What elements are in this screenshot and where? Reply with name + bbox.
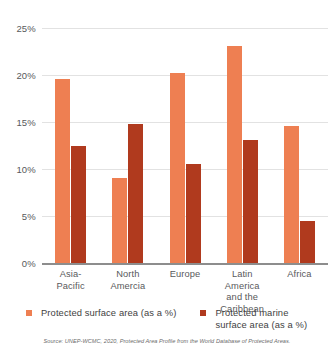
legend-item-protected-surface-area: Protected surface area (as a %): [26, 307, 176, 319]
bar[interactable]: [55, 79, 70, 263]
y-axis-tick-label: 20%: [16, 70, 36, 81]
y-axis-tick-label: 5%: [22, 211, 36, 222]
legend-swatch-icon: [200, 310, 206, 316]
chart-figure: 25%20%15%10%5%0% Asia-PacificNorthAmerci…: [0, 0, 334, 357]
bar[interactable]: [170, 73, 185, 263]
bar-group: [214, 0, 271, 263]
bar-group: [156, 0, 213, 263]
bar-groups: [42, 0, 328, 263]
y-axis-tick-label: 25%: [16, 23, 36, 34]
bar-group: [271, 0, 328, 263]
bar[interactable]: [128, 124, 143, 263]
chart-legend: Protected surface area (as a %) Protecte…: [0, 307, 334, 331]
bar-group: [99, 0, 156, 263]
legend-item-label: Protected marine surface area (as a %): [215, 307, 307, 331]
legend-item-protected-marine-surface-area: Protected marine surface area (as a %): [200, 307, 307, 331]
bar[interactable]: [243, 140, 258, 263]
legend-swatch-icon: [26, 310, 32, 316]
y-axis-tick-label: 0%: [22, 258, 36, 269]
x-axis-baseline: [42, 263, 328, 265]
bar[interactable]: [186, 164, 201, 263]
bar-group: [42, 0, 99, 263]
plot-area: 25%20%15%10%5%0%: [0, 0, 334, 268]
legend-item-label: Protected surface area (as a %): [41, 307, 176, 319]
bar[interactable]: [71, 146, 86, 264]
y-axis: 25%20%15%10%5%0%: [0, 0, 40, 268]
bar[interactable]: [227, 46, 242, 263]
bar[interactable]: [112, 178, 127, 263]
chart-source-note: Source: UNEP-WCMC, 2020, Protected Area …: [0, 338, 334, 344]
bar[interactable]: [300, 221, 315, 263]
bar[interactable]: [284, 126, 299, 263]
y-axis-tick-label: 15%: [16, 117, 36, 128]
y-axis-tick-label: 10%: [16, 164, 36, 175]
